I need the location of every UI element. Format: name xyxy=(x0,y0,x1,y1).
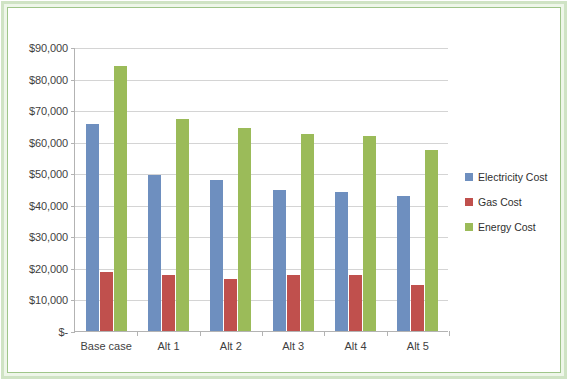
y-axis-tick xyxy=(71,111,75,112)
bar-energy-cost-alt-3 xyxy=(301,134,314,331)
gridline xyxy=(75,237,448,238)
x-axis-label: Alt 1 xyxy=(157,340,179,352)
y-axis-label: $80,000 xyxy=(29,74,68,86)
y-axis-tick xyxy=(71,332,75,333)
legend-swatch-icon xyxy=(465,223,473,231)
bar-electricity-cost-alt-2 xyxy=(210,180,223,331)
legend-swatch-icon xyxy=(465,198,473,206)
chart-canvas: $90,000$80,000$70,000$60,000$50,000$40,0… xyxy=(8,8,560,372)
y-axis-label: $50,000 xyxy=(29,168,68,180)
y-axis-tick xyxy=(71,300,75,301)
bar-gas-cost-base-case xyxy=(100,272,113,331)
gridline xyxy=(75,143,448,144)
y-axis-label: $40,000 xyxy=(29,200,68,212)
bar-energy-cost-alt-4 xyxy=(363,136,376,331)
y-axis-label: $70,000 xyxy=(29,105,68,117)
x-axis-tick xyxy=(387,331,388,336)
bar-chart: $90,000$80,000$70,000$60,000$50,000$40,0… xyxy=(8,8,560,372)
plot-area: $90,000$80,000$70,000$60,000$50,000$40,0… xyxy=(74,48,448,332)
bar-gas-cost-alt-3 xyxy=(287,275,300,331)
legend-item-label: Electricity Cost xyxy=(478,171,547,183)
bar-gas-cost-alt-2 xyxy=(224,279,237,331)
y-axis-tick xyxy=(71,80,75,81)
x-axis-label: Alt 2 xyxy=(220,340,242,352)
bar-electricity-cost-alt-1 xyxy=(148,175,161,331)
y-axis-label: $60,000 xyxy=(29,137,68,149)
bar-gas-cost-alt-4 xyxy=(349,275,362,331)
bar-electricity-cost-base-case xyxy=(86,124,99,331)
x-axis-tick xyxy=(200,331,201,336)
x-axis-tick xyxy=(324,331,325,336)
x-axis-label: Alt 5 xyxy=(407,340,429,352)
y-axis-label: $- xyxy=(58,326,68,338)
x-axis-label: Alt 4 xyxy=(344,340,366,352)
y-axis-label: $90,000 xyxy=(29,42,68,54)
bar-electricity-cost-alt-3 xyxy=(273,190,286,331)
gridline xyxy=(75,80,448,81)
x-axis-tick xyxy=(449,331,450,336)
legend-item-label: Energy Cost xyxy=(478,221,536,233)
y-axis-tick xyxy=(71,269,75,270)
y-axis-tick xyxy=(71,48,75,49)
legend-item-label: Gas Cost xyxy=(478,196,522,208)
bar-gas-cost-alt-5 xyxy=(411,285,424,331)
bar-energy-cost-alt-2 xyxy=(238,128,251,331)
bar-energy-cost-alt-5 xyxy=(425,150,438,331)
y-axis-tick xyxy=(71,143,75,144)
y-axis-tick xyxy=(71,174,75,175)
legend-item[interactable]: Energy Cost xyxy=(465,221,557,233)
chart-screenshot: $90,000$80,000$70,000$60,000$50,000$40,0… xyxy=(0,0,570,382)
y-axis-tick xyxy=(71,206,75,207)
y-axis-label: $30,000 xyxy=(29,231,68,243)
gridline xyxy=(75,300,448,301)
gridline xyxy=(75,111,448,112)
gridline xyxy=(75,174,448,175)
bar-gas-cost-alt-1 xyxy=(162,275,175,331)
x-axis-tick xyxy=(137,331,138,336)
bar-energy-cost-base-case xyxy=(114,66,127,331)
x-axis-tick xyxy=(262,331,263,336)
bar-energy-cost-alt-1 xyxy=(176,119,189,331)
y-axis-label: $10,000 xyxy=(29,294,68,306)
y-axis-tick xyxy=(71,237,75,238)
chart-legend: Electricity CostGas CostEnergy Cost xyxy=(465,171,557,246)
gridline xyxy=(75,269,448,270)
bar-electricity-cost-alt-5 xyxy=(397,196,410,331)
bar-electricity-cost-alt-4 xyxy=(335,192,348,331)
legend-swatch-icon xyxy=(465,173,473,181)
x-axis-label: Alt 3 xyxy=(282,340,304,352)
gridline xyxy=(75,206,448,207)
gridline xyxy=(75,48,448,49)
y-axis-label: $20,000 xyxy=(29,263,68,275)
legend-item[interactable]: Gas Cost xyxy=(465,196,557,208)
x-axis-label: Base case xyxy=(80,340,131,352)
legend-item[interactable]: Electricity Cost xyxy=(465,171,557,183)
